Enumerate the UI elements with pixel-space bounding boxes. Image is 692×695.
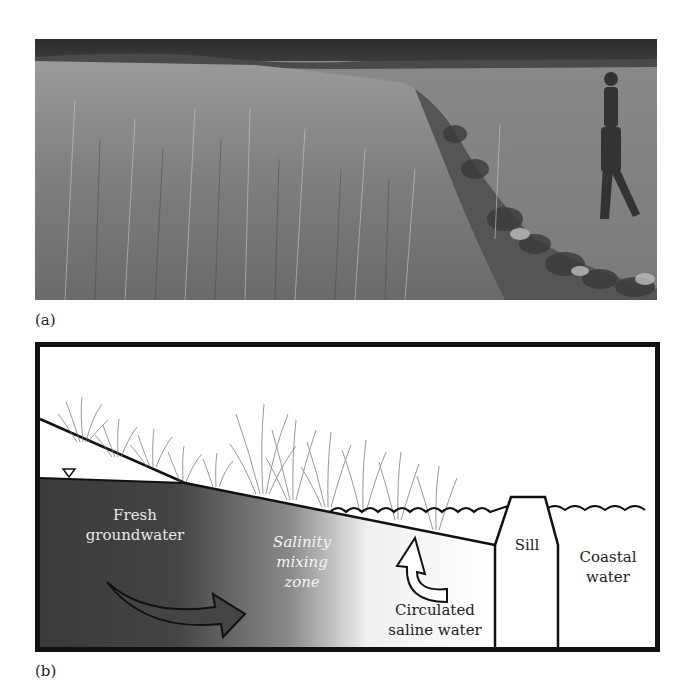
salinity-label-2: mixing — [257, 552, 347, 572]
salinity-label-3: zone — [257, 572, 347, 592]
panel-b-label: (b) — [35, 662, 56, 680]
coastal-water-label-2: water — [563, 567, 653, 587]
panel-a-label: (a) — [35, 311, 56, 329]
circulated-label-2: saline water — [375, 620, 495, 640]
fresh-groundwater-label-1: Fresh — [75, 505, 195, 525]
marsh-photograph — [35, 39, 657, 300]
sill-label: Sill — [497, 535, 557, 555]
sill-diagram: Fresh groundwater Salinity mixing zone C… — [35, 342, 660, 652]
circulated-label-1: Circulated — [375, 600, 495, 620]
fresh-groundwater-label-2: groundwater — [75, 525, 195, 545]
salinity-label-1: Salinity — [257, 532, 347, 552]
coastal-water-label-1: Coastal — [563, 547, 653, 567]
